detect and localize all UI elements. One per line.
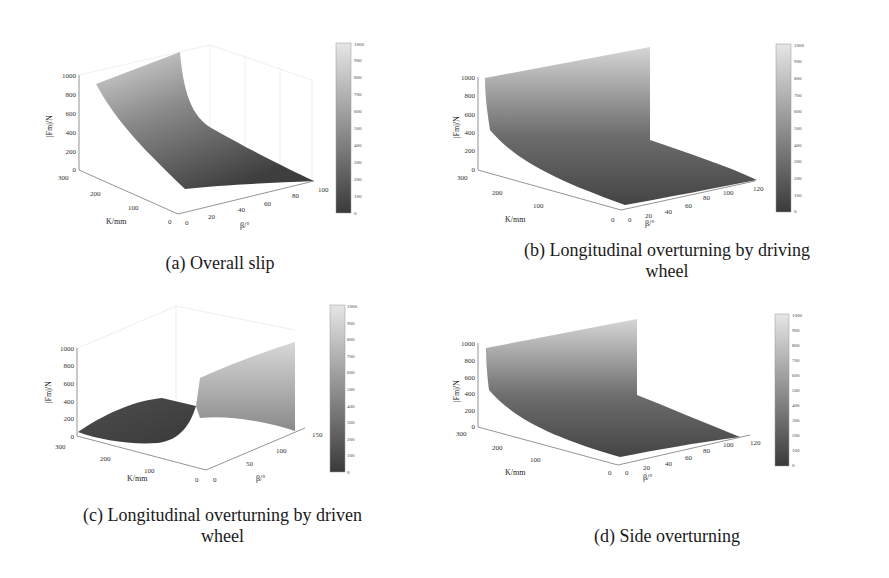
svg-text:600: 600 — [354, 109, 362, 114]
svg-text:0: 0 — [608, 469, 612, 477]
caption-b-line2: wheel — [445, 261, 889, 282]
chart-panel-d: 1000800600 4002000 3002001000 02040 6080… — [445, 290, 889, 578]
svg-text:500: 500 — [794, 126, 802, 131]
svg-text:0: 0 — [168, 218, 172, 226]
svg-text:600: 600 — [794, 109, 802, 114]
x-axis-label: K/mm — [505, 468, 526, 477]
y-axis-label: β/° — [643, 473, 653, 482]
svg-text:800: 800 — [465, 357, 476, 365]
svg-text:300: 300 — [354, 160, 362, 165]
svg-text:0: 0 — [611, 216, 615, 224]
svg-text:500: 500 — [347, 387, 355, 392]
svg-text:200: 200 — [64, 415, 75, 423]
caption-a: (a) Overall slip — [90, 253, 350, 274]
svg-text:1000: 1000 — [347, 304, 358, 309]
colorbar-ticks: 1000900800700 600500400300 2001000 — [794, 43, 805, 214]
svg-text:300: 300 — [55, 443, 66, 451]
svg-text:400: 400 — [66, 129, 77, 137]
z-ticks: 1000800600 4002000 — [461, 340, 476, 431]
y-axis-label: β/° — [256, 474, 266, 483]
svg-text:300: 300 — [792, 418, 800, 423]
x-axis-label: K/mm — [505, 215, 526, 224]
svg-text:400: 400 — [465, 129, 476, 137]
svg-text:100: 100 — [723, 441, 734, 449]
colorbar-ticks: 1000900800700 600500400300 2001000 — [347, 304, 358, 475]
surface-plot-a: 1000800600 4002000 3002001000 02040 6080… — [0, 0, 445, 240]
svg-text:0: 0 — [354, 211, 357, 216]
svg-text:40: 40 — [238, 206, 246, 214]
svg-text:60: 60 — [685, 454, 693, 462]
svg-text:0: 0 — [71, 433, 75, 441]
surface-c-high — [196, 342, 295, 431]
svg-text:800: 800 — [66, 91, 77, 99]
svg-text:1000: 1000 — [792, 313, 803, 318]
surface-plot-c: 1000800600 4002000 3002001000 050100150 … — [0, 290, 445, 500]
z-axis-label: |Fm|/N — [452, 380, 461, 402]
svg-text:0: 0 — [792, 463, 795, 468]
svg-text:20: 20 — [643, 464, 651, 472]
svg-text:200: 200 — [347, 437, 355, 442]
svg-text:100: 100 — [723, 189, 734, 197]
svg-text:80: 80 — [703, 194, 711, 202]
svg-text:800: 800 — [64, 362, 75, 370]
svg-text:200: 200 — [354, 177, 362, 182]
svg-text:20: 20 — [208, 213, 216, 221]
svg-text:500: 500 — [792, 388, 800, 393]
z-axis-label: |Fm|/N — [44, 381, 53, 403]
svg-text:400: 400 — [64, 398, 75, 406]
svg-text:150: 150 — [312, 431, 323, 439]
svg-text:900: 900 — [347, 321, 355, 326]
svg-text:0: 0 — [472, 166, 476, 174]
svg-text:700: 700 — [347, 354, 355, 359]
svg-text:100: 100 — [347, 453, 355, 458]
svg-text:0: 0 — [213, 476, 217, 484]
svg-text:100: 100 — [533, 202, 544, 210]
surface-plot-b: 1000800600 4002000 3002001000 02040 6080… — [445, 0, 889, 240]
svg-text:100: 100 — [318, 186, 329, 194]
svg-text:200: 200 — [492, 189, 503, 197]
svg-text:120: 120 — [750, 439, 761, 447]
svg-text:700: 700 — [792, 358, 800, 363]
svg-text:1000: 1000 — [60, 345, 75, 353]
svg-text:0: 0 — [794, 209, 797, 214]
svg-text:800: 800 — [794, 76, 802, 81]
svg-text:300: 300 — [794, 159, 802, 164]
svg-text:60: 60 — [685, 202, 693, 210]
svg-text:0: 0 — [472, 423, 476, 431]
svg-text:300: 300 — [347, 420, 355, 425]
svg-text:1000: 1000 — [461, 74, 476, 82]
caption-d: (d) Side overturning — [445, 526, 889, 547]
caption-b-line1: (b) Longitudinal overturning by driving — [445, 240, 889, 261]
svg-text:100: 100 — [128, 204, 139, 212]
caption-c-line1: (c) Longitudinal overturning by driven — [0, 505, 445, 526]
svg-text:500: 500 — [354, 126, 362, 131]
svg-text:600: 600 — [66, 110, 77, 118]
y-ticks: 050100150 — [213, 431, 323, 484]
svg-text:100: 100 — [530, 456, 541, 464]
svg-text:100: 100 — [276, 447, 287, 455]
svg-text:100: 100 — [354, 194, 362, 199]
svg-text:900: 900 — [354, 58, 362, 63]
svg-text:800: 800 — [465, 92, 476, 100]
svg-text:400: 400 — [347, 404, 355, 409]
surface-d — [486, 319, 740, 457]
y-ticks: 02040 6080100 — [185, 186, 329, 227]
svg-text:1000: 1000 — [794, 43, 805, 48]
svg-text:200: 200 — [794, 176, 802, 181]
caption-c-line2: wheel — [0, 526, 445, 547]
svg-text:400: 400 — [794, 143, 802, 148]
y-axis-label: β/° — [240, 221, 250, 230]
svg-text:0: 0 — [347, 470, 350, 475]
colorbar-d — [775, 314, 789, 466]
svg-text:1000: 1000 — [461, 340, 476, 348]
svg-text:200: 200 — [66, 148, 77, 156]
svg-text:0: 0 — [195, 476, 199, 484]
y-axis-label: β/° — [645, 219, 655, 228]
colorbar-ticks: 1000900800700 600500400300 2001000 — [354, 42, 365, 216]
svg-text:300: 300 — [456, 430, 467, 438]
svg-text:800: 800 — [792, 343, 800, 348]
svg-text:700: 700 — [794, 93, 802, 98]
svg-text:200: 200 — [792, 433, 800, 438]
surface-b — [485, 47, 757, 205]
svg-text:300: 300 — [58, 174, 69, 182]
